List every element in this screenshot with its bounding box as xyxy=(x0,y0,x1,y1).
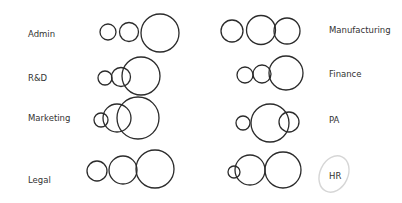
circle-group-hr xyxy=(228,152,301,188)
label-pa: PA xyxy=(329,115,339,125)
circle-3 xyxy=(122,57,160,95)
circle-group-marketing xyxy=(94,97,159,139)
circle-2 xyxy=(253,65,271,83)
circle-group-finance xyxy=(237,56,303,90)
circle-1 xyxy=(98,71,112,85)
circle-group-admin xyxy=(100,14,179,52)
circle-2 xyxy=(251,104,289,142)
label-manufacturing: Manufacturing xyxy=(329,25,391,35)
circle-3 xyxy=(269,56,303,90)
circle-1 xyxy=(236,116,250,130)
circle-1 xyxy=(100,24,116,40)
label-legal: Legal xyxy=(28,175,51,185)
label-hr: HR xyxy=(329,171,341,181)
circle-group-legal xyxy=(87,150,174,188)
circle-group-rd xyxy=(98,57,160,95)
circle-3 xyxy=(141,14,179,52)
circle-3 xyxy=(136,150,174,188)
circle-2 xyxy=(109,156,137,184)
circle-3 xyxy=(117,97,159,139)
circle-1 xyxy=(228,166,240,178)
circle-group-pa xyxy=(236,104,299,142)
label-marketing: Marketing xyxy=(28,113,70,123)
circle-1 xyxy=(237,67,253,83)
label-admin: Admin xyxy=(28,29,55,39)
circle-2 xyxy=(112,68,131,87)
circle-1 xyxy=(221,20,243,42)
circle-1 xyxy=(87,161,107,181)
label-rnd: R&D xyxy=(28,73,47,83)
circle-3 xyxy=(274,18,300,44)
circle-group-manufacturing xyxy=(221,16,300,45)
circle-2 xyxy=(120,23,139,42)
circle-1 xyxy=(94,113,108,127)
label-finance: Finance xyxy=(329,69,362,79)
org-circles-diagram: Admin R&D Marketing Legal Manufacturing … xyxy=(0,0,402,203)
circle-3 xyxy=(265,152,301,188)
circle-2 xyxy=(247,16,276,45)
